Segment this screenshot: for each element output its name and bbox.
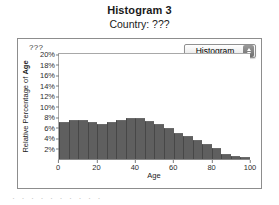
- histogram-bar: [126, 118, 136, 159]
- chart-panel: ??? Histogram Relative Percentage of Age…: [17, 38, 262, 189]
- histogram-bar: [59, 122, 69, 159]
- histogram-bar: [174, 133, 184, 159]
- page-subtitle: Country: ???: [0, 17, 279, 31]
- y-axis-tick-label: 20%: [40, 50, 59, 59]
- histogram-bar: [183, 136, 193, 159]
- histogram-bar: [107, 122, 117, 159]
- y-axis-tick-label: 2%: [44, 144, 59, 153]
- histogram-bar: [240, 157, 250, 159]
- y-axis-tick-label: 16%: [40, 71, 59, 80]
- footer-text: · · · · · · · · · ·: [12, 196, 262, 203]
- histogram-bar: [97, 124, 107, 159]
- y-axis-tick-label: 18%: [40, 60, 59, 69]
- y-axis-tick-label: 10%: [40, 102, 59, 111]
- x-axis-title: Age: [58, 171, 250, 180]
- histogram-bar: [145, 121, 155, 159]
- arrow-up-icon: [247, 48, 251, 51]
- clipped-footer-text: · · · · · · · · · ·: [12, 196, 262, 205]
- histogram-bar: [135, 118, 145, 159]
- y-axis-tick-label: 12%: [40, 92, 59, 101]
- y-axis-tick-label: 4%: [44, 134, 59, 143]
- y-axis-tick-label: 14%: [40, 81, 59, 90]
- histogram-bar: [154, 124, 164, 159]
- plot-area: 2%4%6%8%10%12%14%16%18%20%: [58, 53, 250, 160]
- histogram-bar: [231, 156, 241, 159]
- histogram-bar: [78, 120, 88, 159]
- y-axis-tick-label: 8%: [44, 113, 59, 122]
- y-axis-tick-label: 6%: [44, 123, 59, 132]
- histogram-bar: [221, 154, 231, 159]
- histogram-bar: [69, 120, 79, 159]
- histogram-bar: [202, 144, 212, 159]
- histogram-bar: [116, 120, 126, 159]
- y-axis-title: Relative Percentage of Age: [19, 53, 31, 160]
- title-block: Histogram 3 Country: ???: [0, 0, 279, 31]
- histogram-bars: [59, 54, 250, 159]
- histogram-bar: [212, 148, 222, 159]
- histogram-bar: [193, 140, 203, 159]
- histogram-bar: [88, 122, 98, 159]
- page-title: Histogram 3: [0, 3, 279, 17]
- histogram-bar: [164, 128, 174, 159]
